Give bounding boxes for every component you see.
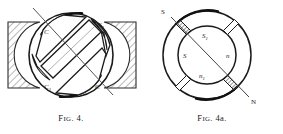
label-axis-n: N	[251, 98, 256, 106]
label-axis-s: S	[161, 8, 165, 16]
figure-4a: S N S1 S n n1 FIG. 4a.	[141, 0, 283, 134]
figure-4: C C1 C1 C FIG. 4.	[0, 0, 142, 134]
label-c-upper-left: C	[44, 28, 49, 36]
figure-4-drawing: C C1 C1 C	[0, 0, 142, 112]
label-s-left: S	[183, 52, 187, 60]
label-n-right: n	[226, 52, 230, 60]
figure-plate: C C1 C1 C FIG. 4.	[0, 0, 283, 134]
label-c1-upper-right: C1	[97, 21, 104, 30]
caption-number: . 4.	[71, 113, 83, 123]
caption-number-4a: . 4a.	[210, 113, 226, 123]
figure-4-caption: FIG. 4.	[0, 113, 142, 123]
figure-4a-caption: FIG. 4a.	[141, 113, 283, 123]
figure-4a-drawing: S N S1 S n n1	[141, 0, 283, 112]
label-c-lower-right: C	[95, 83, 100, 91]
